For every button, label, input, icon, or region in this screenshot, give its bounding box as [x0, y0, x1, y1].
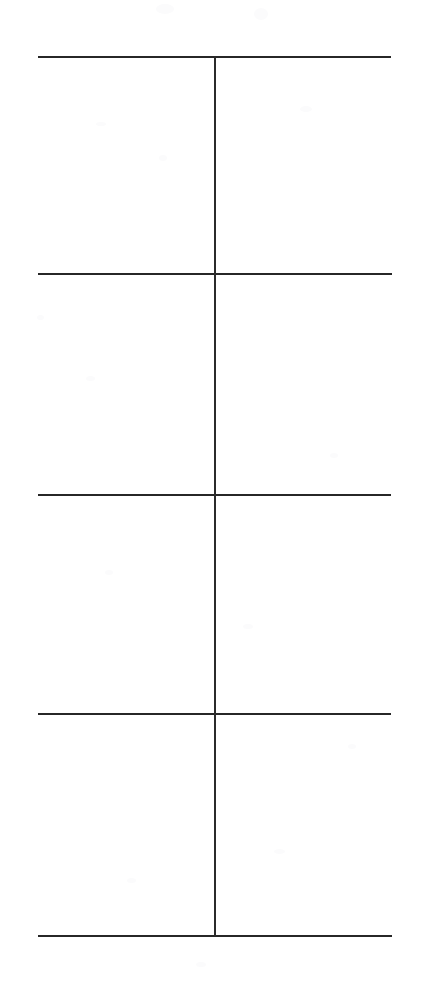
table-cell-r3-c1 — [40, 496, 214, 713]
table-cell-r1-c2 — [216, 58, 391, 273]
table-cell-r3-c2 — [216, 496, 391, 713]
table-cell-r2-c1 — [40, 275, 214, 494]
table-cell-r4-c1 — [40, 715, 214, 935]
table-cell-r2-c2 — [216, 275, 391, 494]
scanned-page — [0, 0, 435, 988]
table-cell-r1-c1 — [40, 58, 214, 273]
table-cell-r4-c2 — [216, 715, 391, 935]
